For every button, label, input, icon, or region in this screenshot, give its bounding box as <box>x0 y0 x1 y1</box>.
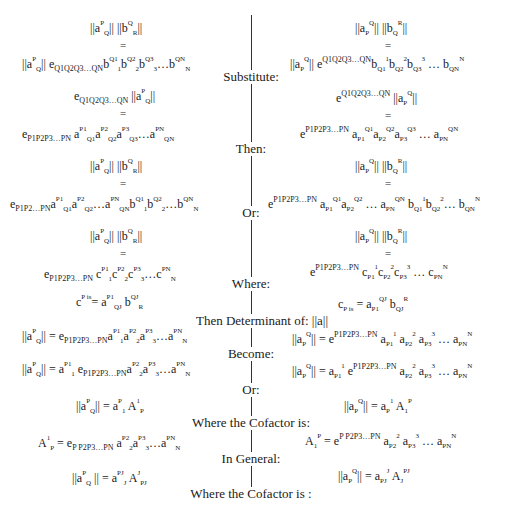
right-eq2-rhs: eP1P2P3…PN aP1Q1aP2Q2aP3Q3 … aPNQN <box>300 128 458 142</box>
right-eq1-equals: = <box>385 40 391 51</box>
left-eq3-equals: = <box>120 178 126 189</box>
right-eq10: ||aPQ|| = aPJJ AJPJ <box>338 470 410 482</box>
right-eq5: cP is = aP1QJ bQJR <box>338 298 408 310</box>
right-eq8: ||aPQ|| = aP1 A1P <box>344 400 412 412</box>
right-eq3-equals: = <box>385 178 391 189</box>
left-eq1-equals: = <box>120 40 126 51</box>
label-become: Become: <box>227 347 275 361</box>
label-determinant: Then Determinant of: ||a|| <box>195 314 329 328</box>
left-eq4-rhs: eP1P2P3…PN cP11cP22cP33…cPNN <box>44 268 176 282</box>
label-substitute: Substitute: <box>222 70 280 84</box>
label-then: Then: <box>235 142 267 156</box>
left-eq9: A1P = eP P2P3…PN aP22aP33…aPNN <box>38 437 180 451</box>
left-eq10: ||aPQ || = aPJJ AJPJ <box>72 472 147 484</box>
left-eq6: ||aPQ|| = eP1P2P3…PNaP11aP22aP33…aPNN <box>22 330 187 344</box>
left-eq3-rhs: eP1P2…PNaP1Q1aP2Q2…aPNQNbQ11bQ22…bQNN <box>10 198 199 212</box>
left-eq1-rhs: ||aPQ|| eQ1Q2Q3…QNbQ11bQ22bQ33…bQNN <box>22 58 190 72</box>
label-cofactor-1: Where the Cofactor is: <box>191 416 311 430</box>
right-eq3-lhs: ||aPQ|| ||bQR|| <box>355 160 407 172</box>
left-eq4-lhs: ||aPQ|| ||bQR|| <box>90 230 142 242</box>
left-eq5: cP is= aP1QJ bQJR <box>76 296 143 308</box>
left-eq7: ||aPQ|| = aP11 eP1P2P3…PNaP22aP33…aPNN <box>22 363 190 377</box>
right-eq4-rhs: eP1P2P3…PN cP11cP22cP33 … cPNN <box>310 266 448 280</box>
right-eq2-lhs: eQ1Q2Q3…QN ||aPQ|| <box>336 92 417 106</box>
right-eq1-lhs: ||aPQ|| ||bQR|| <box>355 22 407 34</box>
left-eq4-equals: = <box>120 248 126 259</box>
right-eq4-equals: = <box>385 248 391 259</box>
label-or-2: Or: <box>241 383 260 397</box>
right-eq6: ||aPQ|| = eP1P2P3…PN aP11 aP22 aP33 … aP… <box>292 333 472 347</box>
left-eq2-rhs: eP1P2P3…PN aP1Q1aP2Q2aP3Q3…aPNQN <box>22 128 174 142</box>
right-eq3-rhs: eP1P2P3…PN aP1Q1aP2Q2 … aPNQN bQ11bQ22… … <box>268 198 480 212</box>
right-eq7: ||aPQ|| = aP11 eP1P2P3…PN aP22 aP33 … aP… <box>292 365 472 379</box>
right-eq9: A1P = eP P2P3…PN aP22 aP33 … aPNN <box>305 435 456 449</box>
left-eq1-lhs: ||aPQ|| ||bQR|| <box>90 22 142 34</box>
right-eq4-lhs: ||aPQ|| ||bQR|| <box>355 230 407 242</box>
label-in-general: In General: <box>221 452 282 466</box>
left-eq3-lhs: ||aPQ|| ||bQR|| <box>90 160 142 172</box>
left-eq2-equals: = <box>120 108 126 119</box>
left-eq8: ||aPQ|| = aP1 A1P <box>76 400 144 412</box>
right-eq2-equals: = <box>385 110 391 121</box>
label-or-1: Or: <box>241 206 260 220</box>
label-cofactor-2: Where the Cofactor is : <box>189 487 312 501</box>
right-eq1-rhs: ||aPQ|| eQ1Q2Q3…QNbQ11bQ22bQ33 … bQNN <box>290 58 464 72</box>
left-eq2-lhs: eQ1Q2Q3…QN ||aPQ|| <box>74 90 155 104</box>
label-where: Where: <box>231 277 271 291</box>
